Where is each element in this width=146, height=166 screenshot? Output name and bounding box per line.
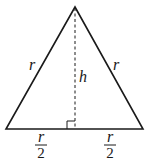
left-side-label: r — [29, 56, 36, 73]
left-half-denominator: 2 — [37, 145, 45, 161]
right-half-denominator: 2 — [106, 145, 114, 161]
right-half-numerator: r — [107, 128, 114, 145]
height-label: h — [79, 68, 87, 85]
right-side-label: r — [113, 56, 120, 73]
triangle-diagram: r h r r 2 r 2 — [0, 0, 146, 166]
left-half-numerator: r — [38, 128, 45, 145]
right-angle-marker — [67, 121, 75, 129]
